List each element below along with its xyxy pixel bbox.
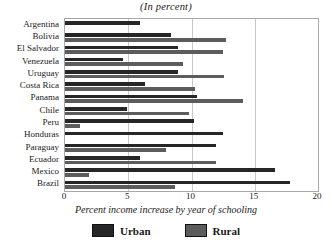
bar-rural	[65, 38, 226, 42]
y-axis-label: Panama	[31, 93, 60, 102]
legend-item: Rural	[185, 224, 241, 237]
bar-urban	[65, 95, 197, 99]
y-axis-label: El Salvador	[17, 44, 59, 53]
bar-rows	[65, 19, 318, 191]
bar-row	[65, 31, 318, 43]
bar-urban	[65, 168, 275, 172]
y-axis-label: Venezuela	[22, 57, 59, 66]
bar-urban	[65, 33, 171, 37]
x-axis-title: Percent income increase by year of schoo…	[0, 204, 332, 215]
bar-rural	[65, 99, 243, 103]
bar-row	[65, 117, 318, 129]
legend-item: Urban	[92, 224, 151, 237]
bar-rural	[65, 112, 189, 116]
bar-urban	[65, 144, 216, 148]
bar-row	[65, 142, 318, 154]
bar-rural	[65, 50, 223, 54]
x-axis-tick: 10	[186, 191, 195, 201]
legend-label: Rural	[213, 225, 241, 237]
bar-chart: (In percent) ArgentinaBoliviaEl Salvador…	[0, 0, 332, 250]
bar-row	[65, 68, 318, 80]
bar-urban	[65, 21, 140, 25]
y-axis-label: Bolivia	[33, 32, 60, 41]
chart-title: (In percent)	[0, 1, 332, 12]
y-axis-label: Honduras	[24, 130, 59, 139]
bar-rural	[65, 87, 195, 91]
plot-area	[64, 18, 319, 192]
y-axis-label: Brazil	[37, 179, 59, 188]
bar-row	[65, 179, 318, 191]
y-axis-label: Costa Rica	[20, 81, 59, 90]
y-axis-label: Ecuador	[29, 155, 59, 164]
bar-row	[65, 44, 318, 56]
bar-urban	[65, 82, 145, 86]
bar-row	[65, 80, 318, 92]
y-axis-label: Paraguay	[26, 143, 60, 152]
y-axis-label: Uruguay	[28, 69, 60, 78]
bar-row	[65, 56, 318, 68]
bar-row	[65, 154, 318, 166]
bar-row	[65, 130, 318, 142]
x-axis-tick: 15	[249, 191, 258, 201]
bar-rural	[65, 124, 80, 128]
bar-urban	[65, 156, 140, 160]
bar-row	[65, 166, 318, 178]
bar-rural	[65, 173, 89, 177]
bar-urban	[65, 107, 127, 111]
y-axis-label: Argentina	[23, 20, 59, 29]
legend-label: Urban	[120, 225, 151, 237]
legend-swatch-icon	[92, 224, 114, 237]
bar-urban	[65, 119, 194, 123]
bar-urban	[65, 181, 290, 185]
chart-legend: UrbanRural	[0, 224, 332, 237]
x-axis-tick: 0	[62, 191, 67, 201]
bar-urban	[65, 58, 123, 62]
y-axis-label: Chile	[40, 106, 60, 115]
y-axis-label: Mexico	[32, 167, 60, 176]
bar-rural	[65, 62, 183, 66]
legend-swatch-icon	[185, 224, 207, 237]
x-axis-tick-labels: 05101520	[0, 191, 332, 204]
bar-rural	[65, 148, 166, 152]
bar-urban	[65, 70, 178, 74]
bar-rural	[65, 75, 224, 79]
x-axis-tick: 20	[313, 191, 322, 201]
bar-row	[65, 19, 318, 31]
y-axis-category-labels: ArgentinaBoliviaEl SalvadorVenezuelaUrug…	[0, 18, 62, 190]
bar-rural	[65, 185, 175, 189]
bar-urban	[65, 132, 223, 136]
y-axis-label: Peru	[43, 118, 60, 127]
bar-row	[65, 105, 318, 117]
bar-rural	[65, 161, 216, 165]
bar-urban	[65, 46, 178, 50]
x-axis-tick: 5	[125, 191, 130, 201]
bar-row	[65, 93, 318, 105]
